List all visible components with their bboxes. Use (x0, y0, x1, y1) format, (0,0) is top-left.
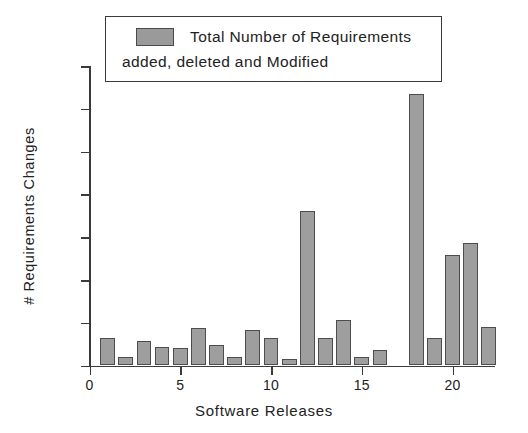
bar (445, 255, 460, 365)
x-axis-tick (271, 367, 273, 375)
bar (209, 345, 224, 366)
y-axis-tick (81, 194, 90, 196)
bar (463, 243, 478, 365)
x-axis-tick-label: 10 (263, 377, 279, 393)
bar (373, 350, 388, 366)
x-axis-tick-label: 15 (354, 377, 370, 393)
bar (354, 357, 369, 366)
x-axis-tick (453, 367, 455, 375)
x-axis-tick-label: 0 (85, 377, 93, 393)
x-axis-line (89, 366, 495, 368)
bar (227, 357, 242, 366)
bar (318, 338, 333, 366)
y-axis-tick (81, 237, 90, 239)
bar (481, 327, 496, 366)
y-axis-tick (81, 280, 90, 282)
bar (173, 348, 188, 366)
y-axis-tick (81, 323, 90, 325)
bar (264, 338, 279, 366)
plot-area: 05101520 (0, 0, 528, 433)
bar (245, 330, 260, 366)
bar (155, 347, 170, 366)
bar (137, 341, 152, 366)
y-axis-tick (81, 109, 90, 111)
bar (336, 320, 351, 366)
bar (191, 328, 206, 366)
bar (282, 359, 297, 366)
bar (409, 94, 424, 366)
bar (100, 338, 115, 366)
bar (427, 338, 442, 366)
bar (300, 211, 315, 365)
bar (118, 357, 133, 366)
bar-chart: Total Number of Requirements added, dele… (0, 0, 528, 433)
y-axis-tick (81, 66, 90, 68)
x-axis-tick-label: 20 (444, 377, 460, 393)
x-axis-tick (362, 367, 364, 375)
x-axis-tick (180, 367, 182, 375)
x-axis-tick-label: 5 (176, 377, 184, 393)
y-axis-tick (81, 152, 90, 154)
x-axis-tick (90, 367, 92, 375)
